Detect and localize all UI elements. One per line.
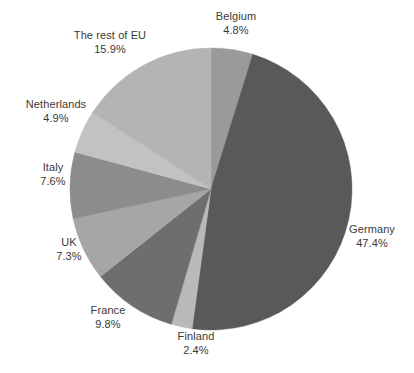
slice-label-uk-value: 7.3% xyxy=(24,249,114,263)
slice-label-germany-value: 47.4% xyxy=(330,236,414,250)
slice-label-germany-name: Germany xyxy=(330,222,414,236)
slice-label-finland-value: 2.4% xyxy=(146,343,246,357)
slice-label-netherlands-value: 4.9% xyxy=(2,111,110,125)
slice-label-france-name: France xyxy=(58,303,158,317)
slice-label-germany: Germany 47.4% xyxy=(330,222,414,250)
slice-label-netherlands: Netherlands 4.9% xyxy=(2,97,110,125)
slice-label-finland-name: Finland xyxy=(146,329,246,343)
slice-label-belgium: Belgium 4.8% xyxy=(186,9,286,37)
slice-label-netherlands-name: Netherlands xyxy=(2,97,110,111)
slice-label-belgium-value: 4.8% xyxy=(186,23,286,37)
slice-label-finland: Finland 2.4% xyxy=(146,329,246,357)
slice-label-france-value: 9.8% xyxy=(58,317,158,331)
slice-label-belgium-name: Belgium xyxy=(186,9,286,23)
slice-label-uk: UK 7.3% xyxy=(24,235,114,263)
slice-label-italy-name: Italy xyxy=(8,160,98,174)
slice-label-rest-of-eu-value: 15.9% xyxy=(48,42,172,56)
slice-label-italy: Italy 7.6% xyxy=(8,160,98,188)
slice-label-italy-value: 7.6% xyxy=(8,174,98,188)
slice-label-rest-of-eu: The rest of EU 15.9% xyxy=(48,28,172,56)
slice-label-rest-of-eu-name: The rest of EU xyxy=(48,28,172,42)
pie-slice-group xyxy=(70,48,352,330)
slice-label-uk-name: UK xyxy=(24,235,114,249)
slice-label-france: France 9.8% xyxy=(58,303,158,331)
pie-chart-figure: Belgium 4.8% The rest of EU 15.9% Nether… xyxy=(0,0,414,373)
